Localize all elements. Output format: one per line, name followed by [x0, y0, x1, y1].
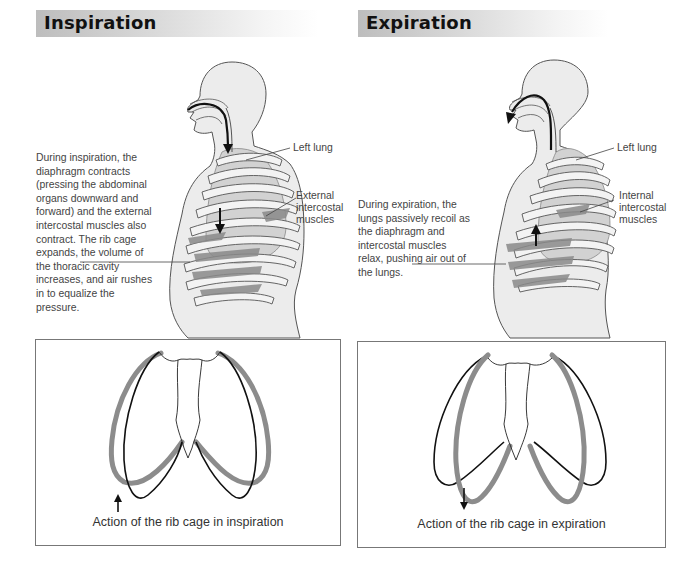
expiration-muscles-label-line1: Internal: [619, 190, 654, 203]
lowered-rib-left: [456, 355, 510, 502]
lowered-rib-right: [530, 355, 584, 502]
expiration-muscles-label-line3: muscles: [619, 214, 657, 227]
expiration-muscles-label-line2: intercostal: [619, 202, 666, 215]
sternum: [488, 358, 552, 460]
expiration-left-lung-label: Left lung: [617, 142, 657, 155]
rest-rib-left: [434, 356, 504, 485]
rest-rib-right: [534, 356, 606, 485]
expiration-rib-cage-caption: Action of the rib cage in expiration: [358, 517, 665, 531]
expiration-rib-cage-box: Action of the rib cage in expiration: [357, 341, 666, 548]
